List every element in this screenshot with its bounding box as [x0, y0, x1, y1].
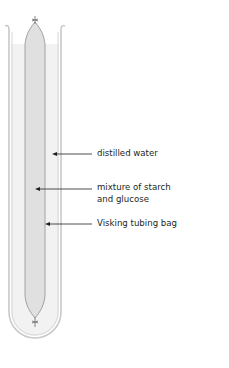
top-knot-icon — [32, 16, 38, 24]
visking-bag — [25, 22, 45, 318]
label-mixture-line1: mixture of starch — [97, 182, 171, 193]
label-visking-bag: Visking tubing bag — [97, 218, 177, 229]
label-mixture-line2: and glucose — [97, 194, 149, 205]
label-distilled-water: distilled water — [97, 148, 158, 159]
